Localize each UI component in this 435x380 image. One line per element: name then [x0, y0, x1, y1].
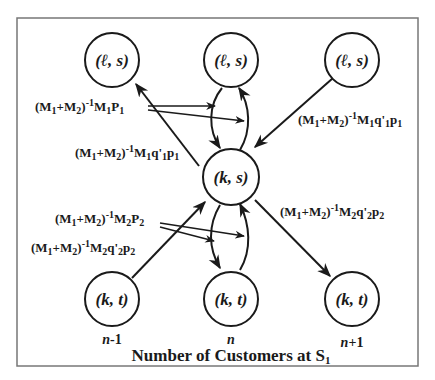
column-label-n-minus-1: n-1 — [102, 332, 121, 347]
node-label: (k, t) — [95, 290, 128, 309]
node-label: (ℓ, s) — [214, 51, 248, 70]
edge-bottom-left-to-center — [132, 202, 205, 278]
rate-label-r2: (M1+M2)-1M1q'1p1 — [298, 110, 402, 129]
pointer-r4-a — [160, 223, 244, 236]
node-label: (ℓ, s) — [95, 51, 129, 70]
rate-label-r6: (M1+M2)-1M2q'2p2 — [280, 202, 384, 221]
loop-center-to-bottom-center — [211, 205, 220, 268]
node-bottom-center: (k, t) — [204, 272, 258, 326]
node-center: (k, s) — [203, 149, 259, 205]
node-top-left: (ℓ, s) — [85, 33, 139, 87]
node-label: (k, s) — [214, 168, 249, 187]
rate-label-r1: (M1+M2)-1M1P1 — [35, 97, 124, 116]
state-transition-diagram: (ℓ, s) (ℓ, s) (ℓ, s) (k, s) (k, t) (k, t… — [0, 0, 435, 380]
rate-label-r3: (M1+M2)-1M1q'1p1 — [75, 143, 179, 162]
loop-center-to-top-center — [239, 88, 248, 150]
loop-bottom-center-to-center — [240, 204, 248, 270]
node-bottom-left: (k, t) — [85, 272, 139, 326]
node-bottom-right: (k, t) — [325, 272, 379, 326]
column-label-n: n — [227, 332, 235, 347]
node-label: (ℓ, s) — [335, 51, 369, 70]
pointer-r4-b — [160, 227, 214, 241]
node-label: (k, t) — [214, 290, 247, 309]
column-label-n-plus-1: n+1 — [341, 335, 364, 350]
rate-label-r4: (M1+M2)-1M2P2 — [55, 209, 144, 228]
node-label: (k, t) — [335, 290, 368, 309]
diagram-title: Number of Customers at S1 — [132, 346, 331, 366]
rate-label-r5: (M1+M2)-1M2q'2p2 — [31, 238, 135, 257]
node-top-right: (ℓ, s) — [325, 33, 379, 87]
node-top-center: (ℓ, s) — [204, 33, 258, 87]
